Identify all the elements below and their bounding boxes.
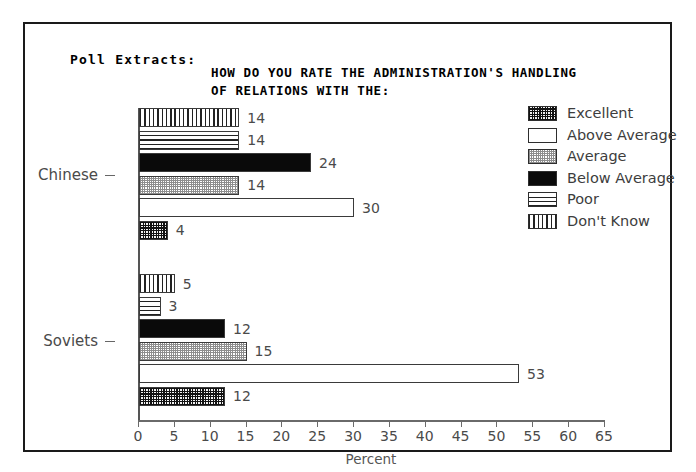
bar-value-label: 12 (233, 321, 251, 337)
bar-excellent-chinese (139, 221, 168, 240)
x-tick-label: 20 (272, 428, 290, 444)
bar-value-label: 14 (247, 132, 265, 148)
legend-swatch-icon (528, 171, 557, 186)
bar-poor-chinese (139, 131, 239, 150)
bar-above-average-chinese (139, 198, 354, 217)
legend-swatch-icon (528, 106, 557, 121)
bar-average-soviets (139, 342, 247, 361)
bar-value-label: 3 (169, 298, 178, 314)
legend-swatch-icon (528, 128, 557, 143)
x-tick-label: 10 (201, 428, 219, 444)
x-tick-label: 55 (523, 428, 541, 444)
bar-value-label: 14 (247, 110, 265, 126)
x-tick-label: 5 (169, 428, 178, 444)
x-axis-label: Percent (138, 451, 604, 467)
bar-poor-soviets (139, 297, 161, 316)
legend-swatch-icon (528, 192, 557, 207)
bar-value-label: 12 (233, 388, 251, 404)
x-axis-line (138, 420, 604, 422)
bar-excellent-soviets (139, 387, 225, 406)
poll-extracts-label: Poll Extracts: (70, 52, 196, 67)
bar-value-label: 15 (255, 343, 273, 359)
bar-average-chinese (139, 176, 239, 195)
x-tick-label: 40 (416, 428, 434, 444)
x-tick (568, 420, 569, 427)
category-label-chinese: Chinese (38, 166, 98, 184)
x-tick (425, 420, 426, 427)
bar-above-average-soviets (139, 364, 519, 383)
x-tick-label: 25 (308, 428, 326, 444)
chart-title: HOW DO YOU RATE THE ADMINISTRATION'S HAN… (211, 64, 577, 100)
bar-value-label: 24 (319, 155, 337, 171)
x-tick (317, 420, 318, 427)
bar-value-label: 53 (527, 366, 545, 382)
legend-swatch-icon (528, 149, 557, 164)
bar-below-average-chinese (139, 153, 311, 172)
x-tick (604, 420, 605, 427)
x-tick (353, 420, 354, 427)
legend-swatch-icon (528, 214, 557, 229)
x-tick-label: 60 (559, 428, 577, 444)
x-tick-label: 50 (488, 428, 506, 444)
x-tick (174, 420, 175, 427)
x-tick (138, 420, 139, 427)
bar-value-label: 5 (183, 276, 192, 292)
x-tick (532, 420, 533, 427)
x-tick-label: 35 (380, 428, 398, 444)
x-tick (389, 420, 390, 427)
chart-title-line-2: OF RELATIONS WITH THE: (211, 83, 390, 98)
bar-value-label: 14 (247, 177, 265, 193)
legend-label: Excellent (567, 104, 633, 123)
chart-frame: Poll Extracts: HOW DO YOU RATE THE ADMIN… (23, 22, 672, 452)
bar-below-average-soviets (139, 319, 225, 338)
bar-don-t-know-chinese (139, 108, 239, 127)
chart-title-line-1: HOW DO YOU RATE THE ADMINISTRATION'S HAN… (211, 65, 577, 80)
x-tick (461, 420, 462, 427)
x-tick-label: 0 (134, 428, 143, 444)
x-tick (246, 420, 247, 427)
chart-screenshot: Poll Extracts: HOW DO YOU RATE THE ADMIN… (0, 0, 696, 472)
bar-value-label: 4 (176, 222, 185, 238)
category-tick (105, 341, 115, 343)
legend-label: Above Average (567, 126, 677, 145)
x-tick-label: 15 (237, 428, 255, 444)
bar-value-label: 30 (362, 200, 380, 216)
x-tick (281, 420, 282, 427)
x-tick-label: 45 (452, 428, 470, 444)
category-tick (105, 175, 115, 177)
legend-label: Poor (567, 190, 599, 209)
x-tick (210, 420, 211, 427)
x-tick-label: 30 (344, 428, 362, 444)
category-label-soviets: Soviets (43, 332, 98, 350)
legend-label: Don't Know (567, 212, 650, 231)
x-tick (496, 420, 497, 427)
x-tick-label: 65 (595, 428, 613, 444)
bar-don-t-know-soviets (139, 274, 175, 293)
legend-label: Below Average (567, 169, 675, 188)
legend-label: Average (567, 147, 627, 166)
